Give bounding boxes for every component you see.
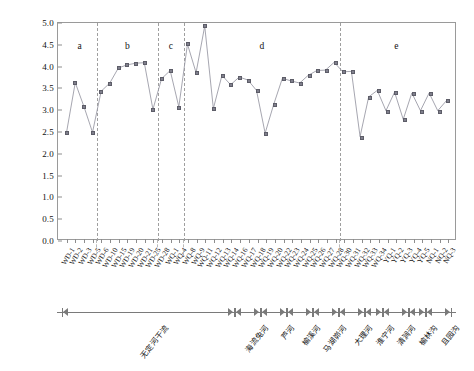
data-point: [134, 62, 138, 66]
section-arrow-left: [410, 308, 415, 316]
river-section-label: 且园沟: [438, 322, 461, 348]
river-section-label: 大理河: [351, 322, 374, 348]
x-tick-mark: [179, 239, 180, 243]
x-tick-mark: [231, 239, 232, 243]
y-tick-label: 4.0: [42, 62, 58, 72]
data-point: [203, 24, 207, 28]
x-tick-mark: [197, 239, 198, 243]
data-point: [299, 82, 303, 86]
x-tick-mark: [344, 239, 345, 243]
section-arrow-right: [376, 308, 381, 316]
data-point: [238, 76, 242, 80]
x-tick-mark: [214, 239, 215, 243]
data-point: [99, 90, 103, 94]
section-arrow-left: [288, 308, 293, 316]
x-tick-mark: [448, 239, 449, 243]
data-point: [108, 82, 112, 86]
data-point: [368, 96, 372, 100]
data-point: [290, 79, 294, 83]
data-point: [73, 81, 77, 85]
y-tick-label: 4.5: [42, 40, 58, 50]
x-tick-mark: [240, 239, 241, 243]
data-point: [377, 89, 381, 93]
data-point: [143, 61, 147, 65]
x-tick-mark: [327, 239, 328, 243]
data-point: [282, 77, 286, 81]
data-point: [91, 131, 95, 135]
section-arrow-left: [427, 308, 432, 316]
x-tick-mark: [75, 239, 76, 243]
data-point: [308, 74, 312, 78]
x-tick-mark: [171, 239, 172, 243]
plot-area: Shannon-Wiener多样性指数 0.00.51.01.52.02.53.…: [57, 22, 456, 240]
river-section-label: 芦河: [278, 322, 297, 341]
section-arrow-right: [228, 308, 233, 316]
data-point: [186, 42, 190, 46]
group-separator-extension: [157, 240, 158, 256]
data-point: [169, 69, 173, 73]
y-tick-label: 5.0: [42, 18, 58, 28]
data-point: [446, 99, 450, 103]
data-point: [403, 118, 407, 122]
section-arrow-left: [314, 308, 319, 316]
data-point: [117, 66, 121, 70]
section-arrow-right: [332, 308, 337, 316]
section-arrow-right: [419, 308, 424, 316]
x-tick-mark: [136, 239, 137, 243]
x-tick-mark: [362, 239, 363, 243]
data-point: [360, 136, 364, 140]
x-tick-mark: [284, 239, 285, 243]
y-tick-label: 0.0: [42, 236, 58, 246]
x-tick-mark: [93, 239, 94, 243]
x-tick-mark: [145, 239, 146, 243]
group-separator-extension: [183, 240, 184, 256]
section-arrow-right: [402, 308, 407, 316]
x-tick-mark: [249, 239, 250, 243]
x-tick-mark: [301, 239, 302, 243]
y-tick-label: 3.5: [42, 83, 58, 93]
section-arrow-left: [384, 308, 389, 316]
data-point: [325, 69, 329, 73]
x-tick-mark: [153, 239, 154, 243]
data-point: [429, 92, 433, 96]
chart-root: Shannon-Wiener多样性指数 0.00.51.01.52.02.53.…: [0, 0, 474, 371]
y-tick-label: 2.0: [42, 149, 58, 159]
x-tick-mark: [292, 239, 293, 243]
x-tick-mark: [370, 239, 371, 243]
x-tick-mark: [266, 239, 267, 243]
data-point: [394, 91, 398, 95]
river-section-label: 马湖峁河: [320, 322, 348, 354]
x-tick-mark: [336, 239, 337, 243]
x-tick-mark: [422, 239, 423, 243]
x-tick-mark: [353, 239, 354, 243]
x-tick-mark: [310, 239, 311, 243]
section-arrow-right: [306, 308, 311, 316]
data-point: [264, 132, 268, 136]
river-section-label: 海流兔河: [242, 322, 270, 354]
x-tick-mark: [440, 239, 441, 243]
x-tick-mark: [275, 239, 276, 243]
data-point: [195, 71, 199, 75]
data-point: [386, 110, 390, 114]
data-point: [256, 89, 260, 93]
group-separator-extension: [96, 240, 97, 256]
x-tick-mark: [101, 239, 102, 243]
group-separator-extension: [339, 240, 340, 256]
data-point: [221, 74, 225, 78]
section-tick: [451, 308, 452, 317]
data-point: [316, 69, 320, 73]
x-tick-mark: [162, 239, 163, 243]
section-arrow-left: [236, 308, 241, 316]
x-tick-mark: [379, 239, 380, 243]
data-point: [229, 83, 233, 87]
data-point: [438, 110, 442, 114]
river-section-label: 无定河干流: [137, 322, 170, 360]
x-tick-mark: [205, 239, 206, 243]
x-tick-mark: [405, 239, 406, 243]
data-point: [334, 61, 338, 65]
river-section-label: 清涧河: [395, 322, 418, 348]
data-point: [125, 63, 129, 67]
y-tick-mark: [58, 241, 62, 242]
data-point: [351, 70, 355, 74]
x-tick-mark: [396, 239, 397, 243]
